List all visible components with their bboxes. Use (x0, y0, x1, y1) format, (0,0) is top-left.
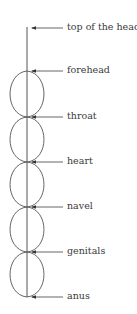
label-anus: anus (67, 291, 90, 301)
arrows (31, 26, 63, 299)
arrow-left-icon (31, 160, 63, 164)
arrow-left-icon (31, 250, 63, 254)
label-navel: navel (67, 201, 93, 211)
label-throat: throat (67, 111, 97, 121)
label-genitals: genitals (67, 246, 105, 256)
label-heart: heart (67, 156, 93, 166)
label-forehead: forehead (67, 65, 110, 75)
label-top-of-head: top of the head (67, 22, 137, 32)
arrow-left-icon (31, 26, 63, 30)
arrow-left-icon (31, 205, 63, 209)
arrow-left-icon (31, 295, 63, 299)
arrow-left-icon (31, 115, 63, 119)
arrow-left-icon (31, 69, 63, 73)
